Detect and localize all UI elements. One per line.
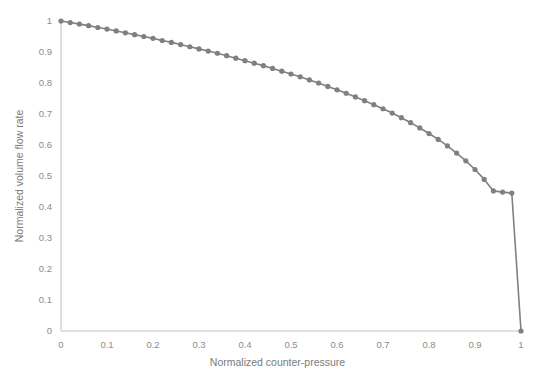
y-axis-title: Normalized volume flow rate — [14, 21, 25, 331]
data-point — [233, 56, 238, 61]
x-tick-label: 0.5 — [284, 340, 297, 350]
chart-container: 00.10.20.30.40.50.60.70.80.91 00.10.20.3… — [0, 0, 555, 385]
x-tick-label: 0.9 — [468, 340, 481, 350]
x-tick-label: 0 — [58, 340, 63, 350]
data-point — [408, 120, 413, 125]
data-point — [445, 143, 450, 148]
data-point — [482, 177, 487, 182]
data-point — [509, 190, 514, 195]
data-point — [187, 44, 192, 49]
data-point — [472, 167, 477, 172]
data-point — [206, 48, 211, 53]
data-point — [390, 110, 395, 115]
x-tick-label: 0.1 — [100, 340, 113, 350]
data-point — [344, 91, 349, 96]
data-point — [399, 115, 404, 120]
data-point — [242, 58, 247, 63]
data-point — [436, 137, 441, 142]
y-tick-label: 0.1 — [20, 295, 52, 305]
data-point — [95, 25, 100, 30]
x-tick-label: 0.4 — [238, 340, 251, 350]
data-point — [178, 42, 183, 47]
data-point — [463, 158, 468, 163]
data-point — [224, 53, 229, 58]
data-point — [316, 80, 321, 85]
data-point — [371, 102, 376, 107]
data-point — [491, 188, 496, 193]
data-point — [518, 328, 523, 333]
data-point — [426, 131, 431, 136]
data-point — [68, 20, 73, 25]
data-point — [298, 74, 303, 79]
data-point — [279, 69, 284, 74]
series-markers — [58, 18, 523, 333]
x-tick-label: 0.7 — [376, 340, 389, 350]
data-point — [132, 32, 137, 37]
data-point — [58, 18, 63, 23]
data-point — [252, 61, 257, 66]
x-tick-label: 0.8 — [422, 340, 435, 350]
data-point — [454, 150, 459, 155]
data-point — [261, 63, 266, 68]
data-point — [123, 30, 128, 35]
x-tick-label: 0.2 — [146, 340, 159, 350]
y-tick-label: 0.8 — [20, 78, 52, 88]
x-tick-label: 0.3 — [192, 340, 205, 350]
data-point — [270, 66, 275, 71]
data-point — [196, 46, 201, 51]
data-point — [141, 34, 146, 39]
data-point — [353, 94, 358, 99]
axis-lines — [61, 21, 521, 331]
data-point — [500, 190, 505, 195]
y-tick-label: 1 — [20, 16, 52, 26]
chart-plot-area — [0, 0, 555, 385]
x-tick-label: 0.6 — [330, 340, 343, 350]
data-point — [288, 71, 293, 76]
data-point — [160, 38, 165, 43]
y-tick-label: 0.9 — [20, 47, 52, 57]
data-point — [104, 26, 109, 31]
data-point — [380, 106, 385, 111]
data-point — [77, 22, 82, 27]
data-point — [362, 98, 367, 103]
data-point — [114, 28, 119, 33]
data-series-line — [58, 18, 523, 333]
data-point — [86, 23, 91, 28]
data-point — [325, 84, 330, 89]
x-axis-title: Normalized counter-pressure — [0, 357, 555, 368]
data-point — [307, 77, 312, 82]
data-point — [150, 36, 155, 41]
data-point — [334, 87, 339, 92]
x-tick-label: 1 — [518, 340, 523, 350]
data-point — [169, 40, 174, 45]
data-point — [417, 125, 422, 130]
series-polyline — [61, 21, 521, 331]
data-point — [215, 51, 220, 56]
y-tick-label: 0.2 — [20, 264, 52, 274]
y-tick-label: 0 — [20, 326, 52, 336]
